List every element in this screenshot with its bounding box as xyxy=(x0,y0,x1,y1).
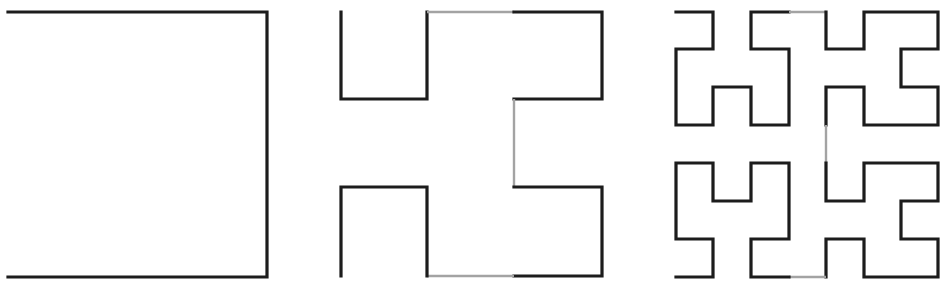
figure-order-1 xyxy=(8,12,267,277)
curve-segment xyxy=(341,187,427,276)
figure-order-2 xyxy=(341,12,602,276)
curve-segment xyxy=(514,12,602,99)
curve-segment xyxy=(676,12,789,125)
figure-order-3 xyxy=(676,12,938,277)
curve-segment xyxy=(341,12,427,99)
curve-segment xyxy=(676,163,789,277)
curve-segment xyxy=(826,163,938,277)
curve-segment xyxy=(826,12,938,125)
curve-segment xyxy=(8,12,267,277)
curve-segment xyxy=(514,187,602,276)
hilbert-curve-diagram xyxy=(0,0,949,291)
